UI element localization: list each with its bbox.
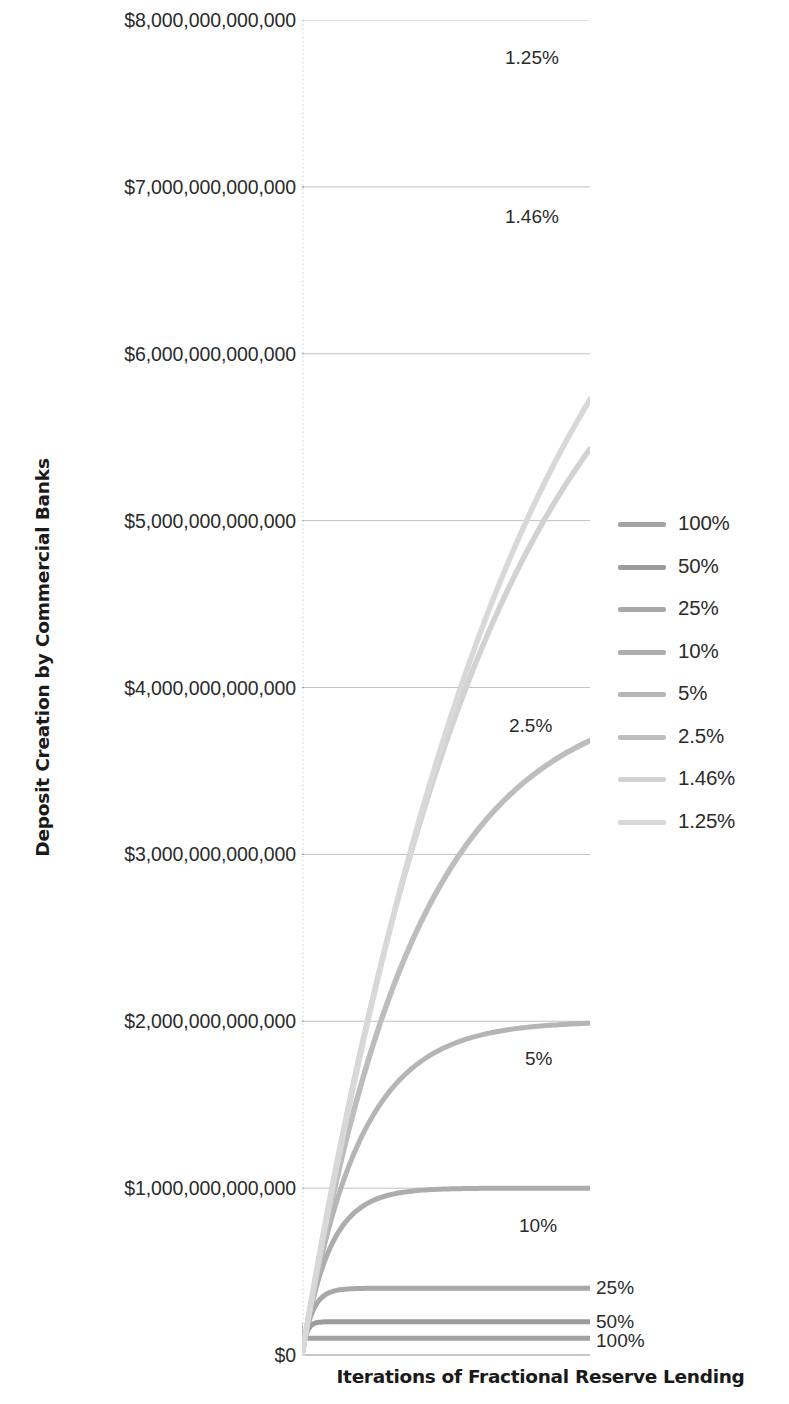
legend-item[interactable]: 100% [618, 505, 783, 548]
series-data-label: 50% [596, 1311, 634, 1333]
legend-color-swatch [618, 650, 666, 655]
legend-item-label: 10% [678, 639, 718, 663]
series-data-label: 100% [596, 1330, 645, 1352]
legend-item[interactable]: 10% [618, 633, 783, 676]
x-axis-title: Iterations of Fractional Reserve Lending [292, 1366, 789, 1387]
legend-item-label: 50% [678, 554, 718, 578]
series-data-label: 2.5% [509, 715, 552, 737]
series-data-label: 1.46% [505, 206, 559, 228]
legend-color-swatch [618, 692, 666, 697]
legend-item[interactable]: 25% [618, 590, 783, 633]
legend-item[interactable]: 1.25% [618, 803, 783, 846]
legend-item[interactable]: 5% [618, 675, 783, 718]
legend-item-label: 100% [678, 511, 730, 535]
legend-item[interactable]: 2.5% [618, 718, 783, 761]
legend-item[interactable]: 50% [618, 548, 783, 591]
series-data-label: 10% [519, 1215, 557, 1237]
legend-color-swatch [618, 777, 666, 782]
legend-item-label: 2.5% [678, 724, 724, 748]
legend-color-swatch [618, 522, 666, 527]
series-data-label: 25% [596, 1277, 634, 1299]
chart-page: { "chart_data": { "type": "line", "title… [0, 0, 789, 1404]
chart-legend: 100%50%25%10%5%2.5%1.46%1.25% [618, 505, 783, 845]
legend-color-swatch [618, 820, 666, 825]
legend-item-label: 25% [678, 596, 718, 620]
legend-color-swatch [618, 565, 666, 570]
legend-item-label: 1.46% [678, 766, 735, 790]
series-data-label: 1.25% [505, 47, 559, 69]
legend-item-label: 5% [678, 681, 707, 705]
legend-item[interactable]: 1.46% [618, 760, 783, 803]
legend-item-label: 1.25% [678, 809, 735, 833]
legend-color-swatch [618, 607, 666, 612]
legend-color-swatch [618, 735, 666, 740]
series-data-label: 5% [525, 1048, 552, 1070]
